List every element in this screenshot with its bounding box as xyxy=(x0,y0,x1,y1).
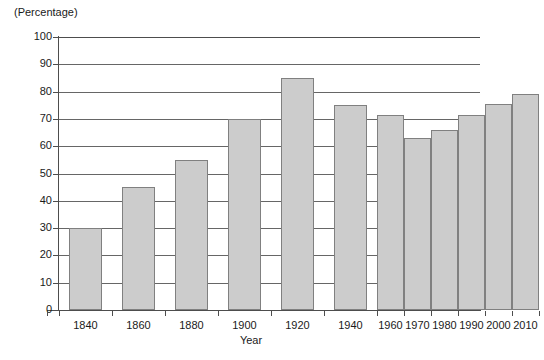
bar-2000[interactable] xyxy=(485,104,512,310)
x-tick-label-1840: 1840 xyxy=(66,319,106,331)
gridline xyxy=(59,37,480,38)
x-tick-mark xyxy=(112,311,113,316)
bar-1970[interactable] xyxy=(404,138,431,310)
x-tick-mark xyxy=(377,311,378,316)
gridline xyxy=(59,64,480,65)
x-tick-mark xyxy=(47,311,48,316)
x-tick-mark xyxy=(431,311,432,316)
y-tick-label: 90 xyxy=(24,58,52,69)
x-tick-mark xyxy=(271,311,272,316)
bar-2010[interactable] xyxy=(512,94,539,310)
y-tick-label: 80 xyxy=(24,86,52,97)
x-tick-mark xyxy=(218,311,219,316)
bar-1980[interactable] xyxy=(431,130,458,310)
bar-1880[interactable] xyxy=(175,160,208,310)
x-tick-label-1940: 1940 xyxy=(331,319,371,331)
y-tick-label: 100 xyxy=(24,31,52,42)
x-tick-mark xyxy=(485,311,486,316)
gridline xyxy=(59,92,480,93)
x-tick-mark xyxy=(165,311,166,316)
x-axis-title: Year xyxy=(0,334,502,346)
bar-1840[interactable] xyxy=(69,228,102,310)
x-tick-mark xyxy=(59,311,60,316)
bar-1990[interactable] xyxy=(458,115,485,310)
y-tick-label: 40 xyxy=(24,195,52,206)
gridline xyxy=(59,119,480,120)
y-tick-label: 10 xyxy=(24,277,52,288)
bar-1920[interactable] xyxy=(281,78,314,310)
bar-1960[interactable] xyxy=(377,115,404,310)
bar-1860[interactable] xyxy=(122,187,155,310)
x-tick-mark xyxy=(404,311,405,316)
y-tick-label: 60 xyxy=(24,140,52,151)
x-tick-label-1880: 1880 xyxy=(172,319,212,331)
y-tick-label: 50 xyxy=(24,168,52,179)
y-tick-label: 20 xyxy=(24,249,52,260)
plot-area xyxy=(59,37,480,310)
bar-1940[interactable] xyxy=(334,105,367,310)
x-tick-mark xyxy=(458,311,459,316)
x-tick-mark xyxy=(539,311,540,316)
x-tick-label-2010: 2010 xyxy=(506,319,544,331)
x-tick-mark xyxy=(512,311,513,316)
y-axis-title: (Percentage) xyxy=(14,6,78,19)
bar-1900[interactable] xyxy=(228,119,261,310)
x-tick-label-1860: 1860 xyxy=(119,319,159,331)
x-tick-label-1920: 1920 xyxy=(278,319,318,331)
y-tick-label: 70 xyxy=(24,113,52,124)
y-tick-label: 30 xyxy=(24,222,52,233)
x-tick-label-1900: 1900 xyxy=(225,319,265,331)
x-tick-mark xyxy=(324,311,325,316)
